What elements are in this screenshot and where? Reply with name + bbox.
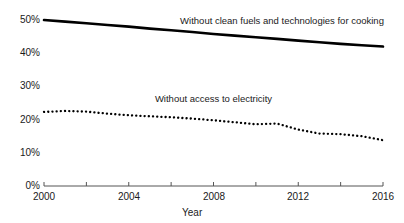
x-axis-ticks	[44, 182, 383, 186]
y-tick-label-0: 0%	[8, 181, 40, 191]
x-tick-label-2004: 2004	[109, 192, 149, 202]
x-axis	[44, 182, 383, 186]
y-tick-label-20: 20%	[8, 115, 40, 125]
chart-series-group	[44, 20, 383, 140]
chart-plot-area	[0, 0, 404, 223]
x-tick-label-2016: 2016	[363, 192, 403, 202]
y-tick-label-30: 30%	[8, 81, 40, 91]
x-axis-title: Year	[182, 208, 202, 218]
x-tick-label-2008: 2008	[194, 192, 234, 202]
x-tick-label-2012: 2012	[278, 192, 318, 202]
y-tick-label-10: 10%	[8, 148, 40, 158]
series-label-cooking: Without clean fuels and technologies for…	[180, 16, 384, 26]
y-tick-label-40: 40%	[8, 48, 40, 58]
x-tick-label-2000: 2000	[24, 192, 64, 202]
series-label-electricity: Without access to electricity	[155, 94, 272, 104]
series-line-1	[44, 111, 383, 140]
y-tick-label-50: 50%	[8, 15, 40, 25]
chart-container: 50% 40% 30% 20% 10% 0% 2000 2004 2008 20…	[0, 0, 404, 223]
